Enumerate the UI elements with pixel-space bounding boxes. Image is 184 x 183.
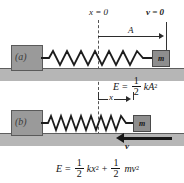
eq-b-numerator-2: 1 xyxy=(111,158,120,168)
amplitude-end-tick xyxy=(166,22,167,50)
arrow-right-icon xyxy=(159,33,164,39)
physics-figure: x = 0 v = 0 A (a) m E = 1 2 kA 2 x xyxy=(0,0,184,183)
mass-block-b: m xyxy=(133,115,151,132)
panel-a-velocity-label: v = 0 xyxy=(146,8,164,17)
velocity-arrow-shaft xyxy=(124,137,172,140)
eq-b-exponent-2: 2 xyxy=(136,165,139,171)
eq-b-fraction-2: 1 2 xyxy=(111,158,120,179)
amplitude-measure-line xyxy=(98,36,160,37)
panel-b-label: (b) xyxy=(15,116,27,127)
eq-b-exponent-1: 2 xyxy=(96,165,99,171)
eq-b-coefficient-1: kx xyxy=(87,164,96,174)
eq-a-coefficient: kA xyxy=(144,82,155,92)
mass-block-a: m xyxy=(152,50,170,67)
x-measure-right-tick xyxy=(133,92,134,100)
eq-b-denominator-1: 2 xyxy=(75,168,84,179)
eq-b-coefficient-2: mv xyxy=(124,164,136,174)
panel-b-velocity-label: v xyxy=(125,142,129,151)
eq-b-numerator-1: 1 xyxy=(75,158,84,168)
eq-b-denominator-2: 2 xyxy=(111,168,120,179)
coil-spring-icon-b xyxy=(41,113,135,133)
arrow-right-icon-x xyxy=(126,96,131,102)
panel-b-energy-equation: E = 1 2 kx 2 + 1 2 mv 2 xyxy=(56,158,139,179)
panel-b-displacement-label: x xyxy=(108,93,114,102)
panel-a-amplitude-label: A xyxy=(126,26,136,35)
arrow-left-icon xyxy=(116,133,124,143)
eq-b-plus: + xyxy=(102,164,108,174)
panel-a-label: (a) xyxy=(15,51,27,62)
eq-a-exponent: 2 xyxy=(154,83,157,89)
panel-a-energy-equation: E = 1 2 kA 2 xyxy=(113,76,157,97)
coil-spring-icon xyxy=(41,48,153,68)
eq-a-equals: = xyxy=(122,82,128,92)
eq-a-numerator: 1 xyxy=(132,76,141,86)
eq-b-fraction-1: 1 2 xyxy=(75,158,84,179)
mass-label-b: m xyxy=(139,119,145,128)
mass-label: m xyxy=(158,54,164,63)
eq-b-equals: = xyxy=(65,164,71,174)
eq-b-lhs: E xyxy=(56,164,62,174)
eq-a-lhs: E xyxy=(113,82,119,92)
panel-a-origin-label: x = 0 xyxy=(89,8,108,17)
